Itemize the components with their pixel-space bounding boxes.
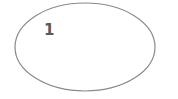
ellipse-node[interactable]	[15, 3, 155, 91]
diagram-canvas: 1	[0, 0, 178, 99]
node-label: 1	[44, 21, 54, 39]
diagram-svg	[0, 0, 178, 99]
